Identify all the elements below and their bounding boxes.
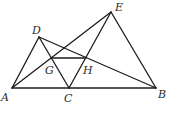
label-A: A [0,91,9,104]
segment-AE [12,12,111,88]
label-B: B [157,88,166,101]
label-H: H [82,64,93,77]
segment-AD [12,37,39,88]
label-G: G [45,64,54,77]
segment-DB [39,37,156,88]
label-C: C [64,92,73,105]
point-labels: A B C D E G H [0,1,166,105]
geometry-diagram: A B C D E G H [0,0,170,121]
label-D: D [31,24,41,37]
label-E: E [114,1,123,14]
segment-EB [111,12,156,88]
segment-DC [39,37,69,88]
